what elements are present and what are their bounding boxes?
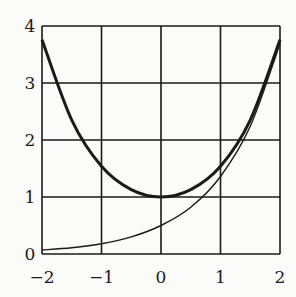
y-tick-label: 1 — [25, 187, 36, 207]
chart: −2−101201234 — [0, 0, 296, 297]
y-tick-label: 3 — [25, 73, 36, 93]
x-tick-label: −2 — [29, 267, 54, 287]
x-tick-label: 2 — [275, 267, 286, 287]
x-tick-label: −1 — [89, 267, 114, 287]
y-tick-label: 2 — [25, 130, 36, 150]
tick-labels: −2−101201234 — [25, 16, 286, 287]
x-tick-label: 1 — [215, 267, 226, 287]
x-tick-label: 0 — [156, 267, 167, 287]
y-tick-label: 4 — [25, 16, 36, 36]
y-tick-label: 0 — [25, 244, 36, 264]
